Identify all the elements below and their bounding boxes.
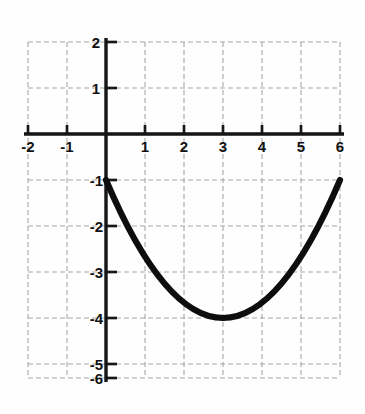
ytick-label--1: -1 <box>90 172 103 189</box>
xtick-label-2: 2 <box>180 138 188 155</box>
xtick-label--1: -1 <box>60 138 73 155</box>
xtick-label-3: 3 <box>219 138 227 155</box>
xtick-label-5: 5 <box>297 138 305 155</box>
graph-figure: -2 -1 1 2 3 4 5 6 2 1 -1 -2 -3 -4 -5 -6 <box>0 0 365 414</box>
ytick-label-2: 2 <box>92 34 100 51</box>
xtick-label-1: 1 <box>141 138 149 155</box>
ytick-label--3: -3 <box>90 264 103 281</box>
ytick-label--2: -2 <box>90 218 103 235</box>
ytick-label-1: 1 <box>92 80 100 97</box>
ytick-label--4: -4 <box>90 310 104 327</box>
xtick-label-6: 6 <box>336 138 344 155</box>
parabola-graph-svg: -2 -1 1 2 3 4 5 6 2 1 -1 -2 -3 -4 -5 -6 <box>0 0 365 414</box>
figure-background <box>0 0 365 414</box>
xtick-label--2: -2 <box>21 138 34 155</box>
ytick-label--6: -6 <box>90 370 103 387</box>
xtick-label-4: 4 <box>258 138 267 155</box>
